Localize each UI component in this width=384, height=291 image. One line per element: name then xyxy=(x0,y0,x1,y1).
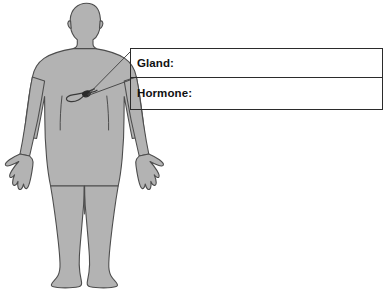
hormone-label: Hormone: xyxy=(137,87,192,99)
right-hand xyxy=(136,154,164,190)
head-shape xyxy=(70,3,100,48)
hormone-answer-field[interactable] xyxy=(193,78,378,107)
left-ear xyxy=(68,21,71,28)
body-silhouette xyxy=(5,3,163,288)
right-ear xyxy=(100,21,103,28)
body-diagram xyxy=(0,0,384,291)
left-hand xyxy=(5,154,33,190)
answer-row-gland: Gland: xyxy=(131,49,382,78)
answer-box: Gland: Hormone: xyxy=(130,48,383,110)
answer-row-hormone: Hormone: xyxy=(131,78,382,107)
right-leg xyxy=(85,186,119,288)
torso-shape xyxy=(24,49,145,186)
gland-answer-field[interactable] xyxy=(193,49,378,77)
worksheet-canvas: Gland: Hormone: xyxy=(0,0,384,291)
gland-label: Gland: xyxy=(137,57,174,69)
left-leg xyxy=(51,186,85,288)
